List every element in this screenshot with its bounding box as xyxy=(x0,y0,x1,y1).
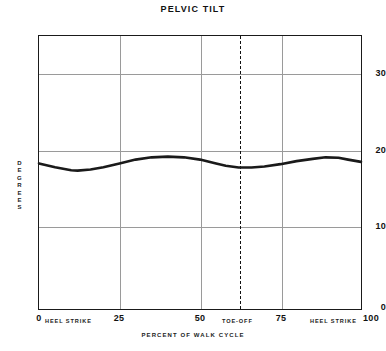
annotation-toe-off: TOE-OFF xyxy=(222,318,253,324)
x-tick-label-0: 0 xyxy=(36,313,41,323)
x-tick-label-75: 75 xyxy=(276,313,287,323)
plot-area xyxy=(38,35,362,310)
y-tick-label-20: 20 xyxy=(352,145,386,155)
y-tick-label-30: 30 xyxy=(352,68,386,78)
y-axis-title-char-e3: E xyxy=(14,197,25,204)
y-axis-title-char-e2: E xyxy=(14,190,25,197)
y-axis-title-char-g: G xyxy=(14,175,25,182)
annotation-heel-strike-right: HEEL STRIKE xyxy=(310,318,357,324)
annotation-heel-strike-left: HEEL STRIKE xyxy=(45,318,92,324)
y-tick-label-0: 0 xyxy=(352,302,386,312)
y-axis-title: D E G R E E S xyxy=(14,160,25,212)
x-tick-label-50: 50 xyxy=(195,313,206,323)
x-tick-label-25: 25 xyxy=(114,313,125,323)
x-tick-label-100: 100 xyxy=(363,313,379,323)
y-axis-title-char-s: S xyxy=(14,204,25,211)
series-pelvic-tilt xyxy=(39,36,361,309)
y-axis-title-char-d: D xyxy=(14,160,25,167)
x-axis-title: PERCENT OF WALK CYCLE xyxy=(0,332,386,338)
pelvic-tilt-chart: PELVIC TILT 30 20 10 0 D E G R E E S 0 2… xyxy=(0,0,386,351)
y-axis-title-char-r: R xyxy=(14,182,25,189)
y-tick-label-10: 10 xyxy=(352,221,386,231)
chart-title: PELVIC TILT xyxy=(0,4,386,14)
y-axis-title-char-e1: E xyxy=(14,167,25,174)
